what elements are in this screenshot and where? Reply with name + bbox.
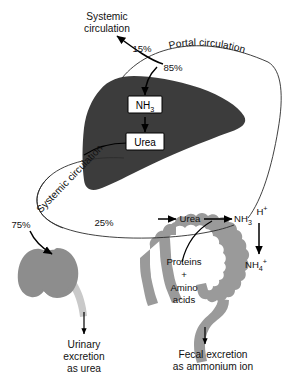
intestine-urea-label: Urea (180, 213, 201, 224)
urinary-excretion-line1: Urinary (68, 339, 102, 350)
liver-nh3-node: NH3 (128, 96, 162, 114)
intestine-amino-label: Amino (170, 282, 197, 293)
ammonia-metabolism-diagram: Systemic circulation Portal circulation … (0, 0, 288, 379)
portal-circulation-label: Portal circulation (168, 37, 247, 55)
percent-25-label: 25% (94, 217, 114, 228)
fecal-excretion-line2: as ammonium ion (173, 361, 253, 372)
intestine-plus-sign: + (181, 269, 187, 280)
systemic-circulation-top-label-line2: circulation (84, 23, 130, 34)
intestine-hplus-label: H+ (256, 204, 267, 217)
percent-85-label: 85% (163, 62, 183, 73)
liver-urea-text: Urea (134, 137, 156, 148)
liver-urea-node: Urea (126, 133, 164, 150)
diagram-canvas: Systemic circulation Portal circulation … (0, 0, 288, 379)
intestine-nh4-label: NH4+ (245, 257, 267, 273)
urinary-excretion-line3: as urea (67, 363, 101, 374)
kidney-organ (18, 248, 87, 317)
urinary-excretion-line2: excretion (63, 351, 104, 362)
fecal-excretion-line1: Fecal excretion (178, 349, 247, 360)
intestine-nh3-label: NH3 (234, 213, 252, 227)
percent-15-label: 15% (132, 43, 152, 54)
intestine-proteins-label: Proteins (166, 256, 201, 267)
systemic-circulation-top-label-line1: Systemic (86, 11, 127, 22)
percent-75-label: 75% (11, 219, 31, 230)
intestine-acids-label: acids (173, 294, 196, 305)
